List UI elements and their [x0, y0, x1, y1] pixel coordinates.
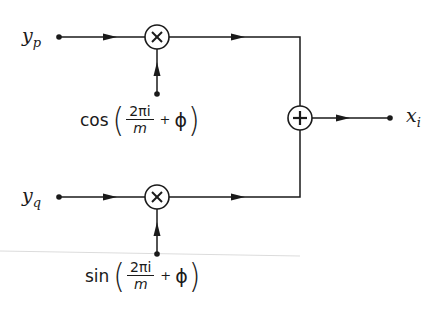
label-yq: yq: [22, 184, 41, 210]
diagram-canvas: [0, 0, 442, 315]
phi-symbol: ϕ: [175, 265, 188, 287]
fraction: 2πi m: [126, 103, 153, 136]
fraction: 2πi m: [127, 259, 154, 292]
paren-close: ): [189, 258, 201, 293]
paren-open: (: [113, 102, 125, 137]
scan-artifact-line: [0, 251, 300, 256]
top-branch: [56, 25, 300, 106]
output-node-xi: [387, 115, 393, 121]
label-sin-carrier: sin ( 2πi m + ϕ ): [85, 259, 200, 292]
paren-close: ): [188, 102, 200, 137]
paren-open: (: [113, 258, 125, 293]
label-cos-carrier: cos ( 2πi m + ϕ ): [80, 103, 200, 136]
summer-branch: [288, 106, 393, 130]
label-yp: yp: [22, 24, 41, 50]
label-xi: xi: [406, 104, 421, 130]
bottom-branch: [56, 130, 300, 257]
fn-name-sin: sin: [85, 266, 109, 286]
fn-name-cos: cos: [80, 110, 109, 130]
phi-symbol: ϕ: [174, 109, 187, 131]
